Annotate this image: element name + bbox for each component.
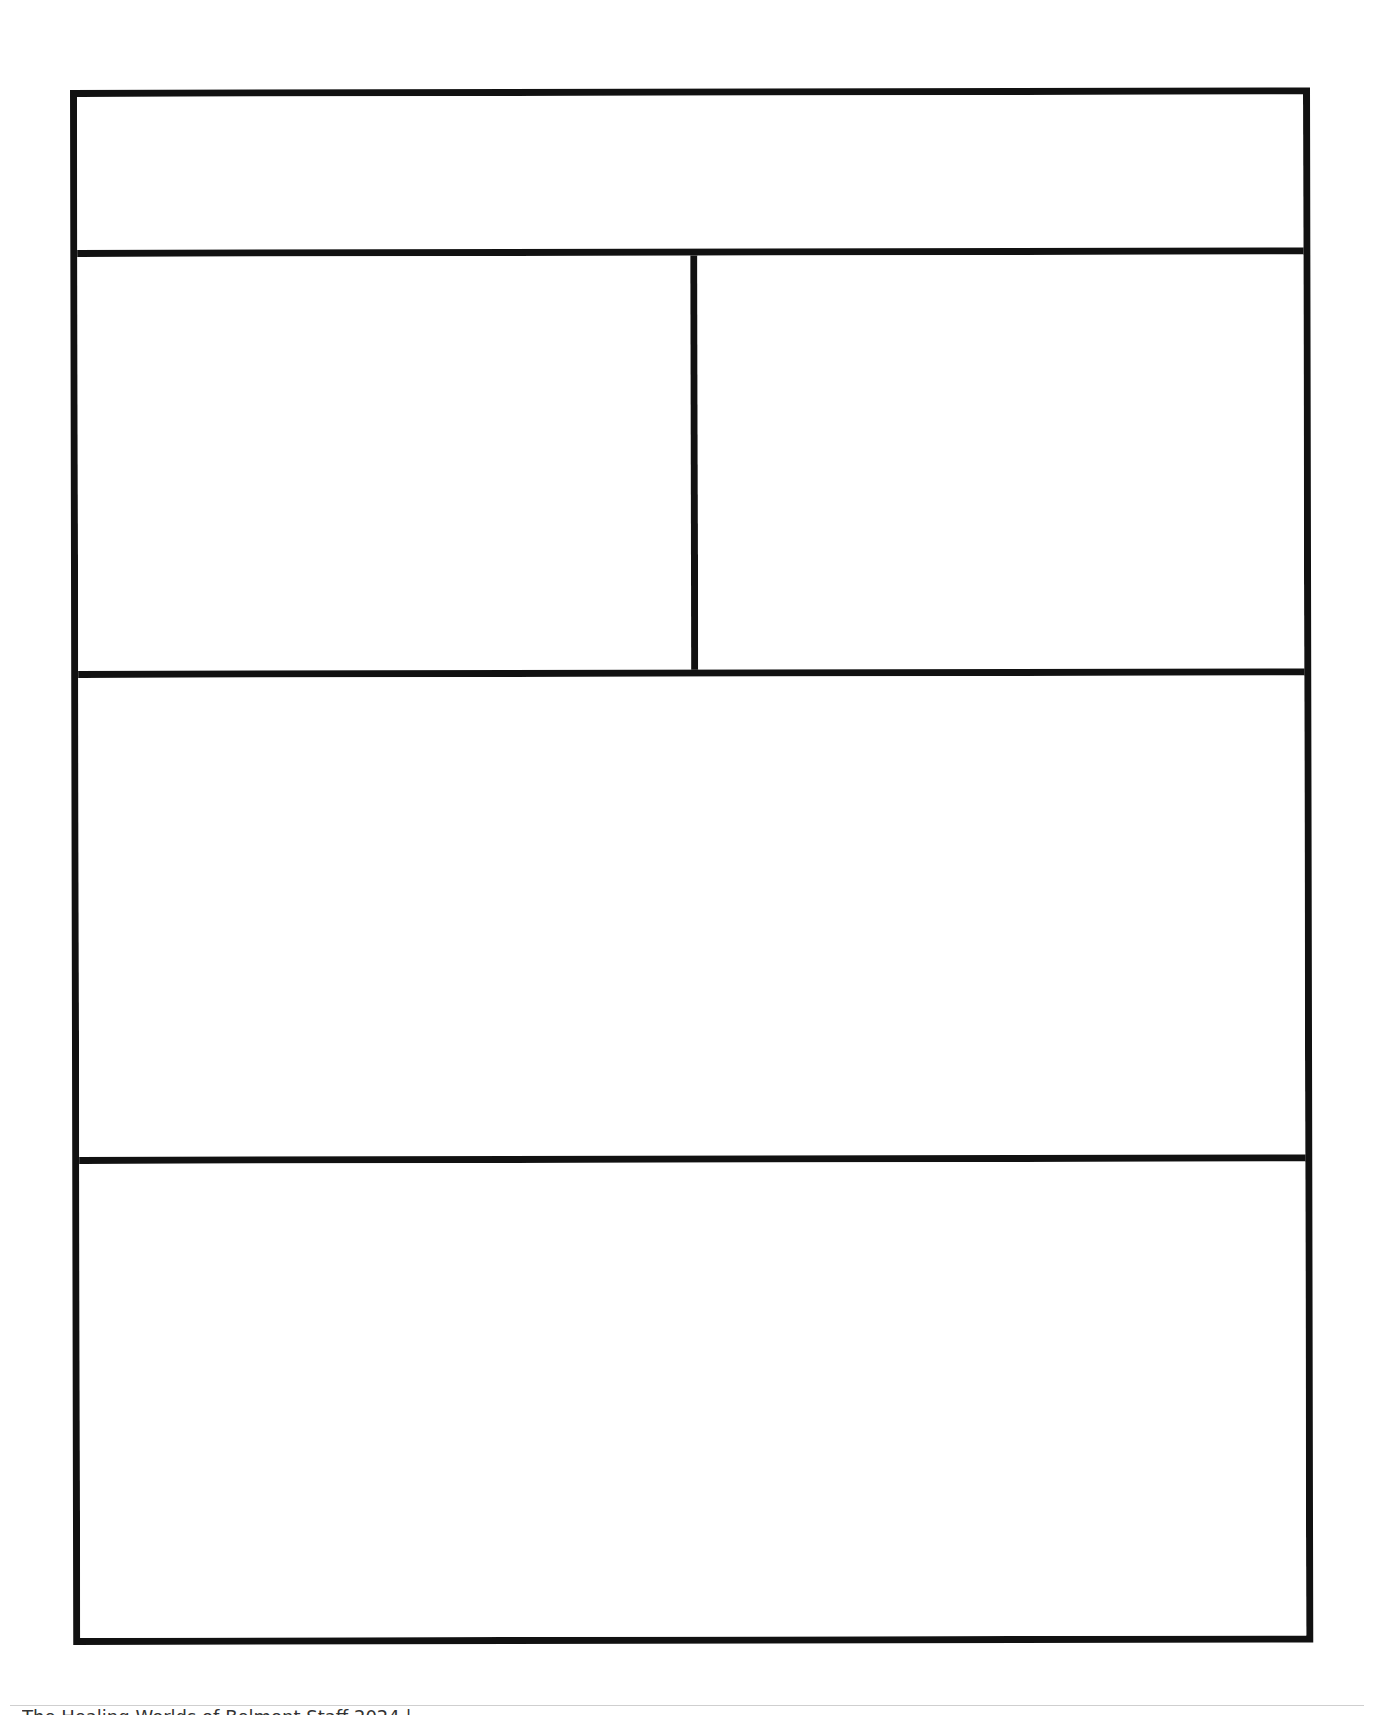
panel-template-frame — [70, 87, 1313, 1645]
left-panel — [77, 256, 691, 671]
footer-text: The Healing Worlds of Belmont Staff 2024… — [22, 1706, 412, 1715]
header-panel — [77, 94, 1303, 250]
right-panel — [697, 254, 1304, 669]
bottom-panel — [79, 1161, 1306, 1638]
middle-panel — [78, 675, 1305, 1157]
